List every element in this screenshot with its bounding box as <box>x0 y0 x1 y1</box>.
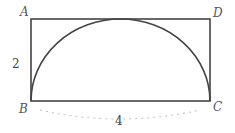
semicircle-arc <box>31 19 210 101</box>
vertex-label-d: D <box>212 6 223 20</box>
vertex-label-b: B <box>18 102 28 116</box>
height-label: 2 <box>12 57 20 71</box>
geometry-diagram: A D B C 2 4 <box>0 0 235 133</box>
width-label: 4 <box>115 114 123 128</box>
vertex-label-a: A <box>19 5 29 19</box>
rectangle-abcd <box>31 19 210 101</box>
vertex-label-c: C <box>213 100 222 114</box>
